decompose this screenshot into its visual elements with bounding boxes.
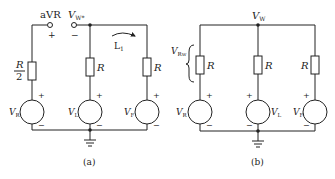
panel-b: VW VRw R R R VR + − VL + − VF + − (b) [171, 10, 327, 167]
sign-plus-avr: + [48, 30, 56, 40]
sign-plus-b-vl: + [246, 91, 253, 100]
label-avr: aVR [40, 9, 61, 20]
sign-plus-b-vr: + [206, 91, 213, 100]
resistor-b-mid [254, 56, 262, 74]
ground-icon-a [84, 140, 96, 146]
caption-b: (b) [251, 157, 264, 167]
label-source-a-vl: VL [68, 107, 79, 118]
label-source-a-vr: VR [9, 107, 21, 118]
label-brace-vrw: VRw [171, 46, 187, 57]
resistor-a-mid [86, 58, 94, 76]
label-r-right-b: R [300, 60, 309, 71]
node-a-bottom [88, 128, 92, 132]
sign-plus-a-vr: + [38, 91, 45, 100]
node-b-top [256, 23, 260, 27]
sign-minus-b-vr: − [206, 121, 213, 130]
label-r-over-2-num: R [15, 59, 24, 70]
sign-plus-a-vl: + [96, 91, 103, 100]
node-b-bottom [256, 129, 260, 133]
resistor-b-right [311, 56, 319, 74]
sign-minus-a-vr: − [38, 121, 45, 130]
label-node-vw: VW [252, 10, 266, 22]
brace-icon-vrw [186, 45, 194, 82]
circuit-diagram: aVR VW* + − L1 R 2 R R VR + − VL + − VF … [0, 0, 335, 179]
sign-minus-b-vf: − [303, 121, 310, 130]
label-loop-l1: L1 [114, 41, 124, 52]
loop-arrow-a [112, 33, 135, 36]
label-r-right-a: R [153, 62, 162, 73]
caption-a: (a) [83, 157, 95, 167]
label-r-mid-a: R [96, 62, 105, 73]
wire-a-top [77, 25, 148, 58]
resistor-b-left [196, 56, 204, 74]
label-source-b-vf: VF [293, 107, 304, 118]
label-r-over-2-den: 2 [16, 71, 22, 82]
terminal-vw [72, 23, 77, 28]
label-r-left-b: R [206, 60, 215, 71]
label-vw-star: VW* [68, 9, 84, 21]
panel-a: aVR VW* + − L1 R 2 R R VR + − VL + − VF … [9, 9, 162, 167]
label-source-a-vf: VF [124, 107, 135, 118]
sign-minus-a-vf: − [153, 121, 160, 130]
label-r-mid-b: R [264, 60, 273, 71]
resistor-a-left [28, 62, 36, 80]
sign-minus-vw: − [71, 30, 79, 40]
node-a-top [88, 23, 92, 27]
label-source-b-vl: VL [271, 107, 282, 118]
sign-plus-a-vf: + [153, 91, 160, 100]
sign-minus-b-vl: − [246, 121, 253, 130]
ground-icon-b [252, 141, 264, 147]
label-source-b-vr: VR [176, 107, 188, 118]
wire-b-top [200, 25, 315, 56]
resistor-a-right [143, 58, 151, 76]
sign-plus-b-vf: + [303, 91, 310, 100]
terminal-avr [48, 23, 53, 28]
sign-minus-a-vl: − [96, 121, 103, 130]
